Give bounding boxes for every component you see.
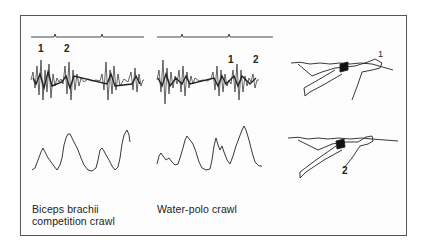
timing-line-right [157, 34, 273, 37]
emg-marker-right-2: 2 [253, 54, 259, 65]
emg-marker-right-1: 1 [228, 54, 234, 65]
raw-emg-left [31, 60, 144, 100]
caption-water-polo: Water-polo crawl [157, 203, 237, 215]
caption-biceps-line2: competition crawl [32, 215, 115, 227]
swimmer-illustration-1 [291, 59, 393, 100]
timing-line-left [31, 34, 144, 37]
emg-marker-left-2: 2 [64, 43, 70, 54]
integrated-emg-right [157, 126, 262, 170]
raw-emg-right [157, 60, 259, 104]
swimmer-marker-2: 2 [342, 165, 348, 176]
caption-biceps-line1: Biceps brachii [32, 203, 99, 215]
swimmer-marker-1: 1 [378, 49, 383, 59]
emg-marker-left-1: 1 [38, 43, 44, 54]
integrated-emg-left [32, 130, 130, 171]
